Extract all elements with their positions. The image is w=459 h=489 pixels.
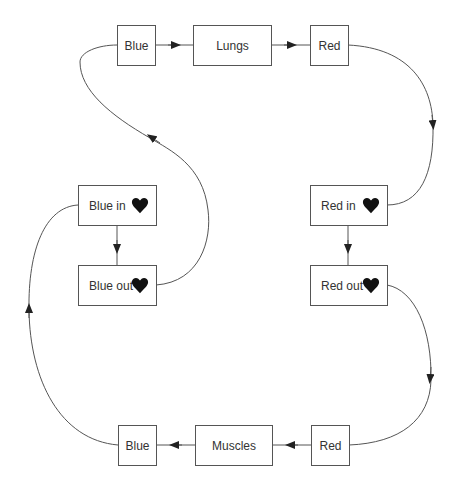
node-label: Red — [318, 39, 340, 53]
connector-layer — [0, 0, 459, 489]
node-label: Red in — [321, 199, 356, 213]
node-red-top: Red — [310, 25, 349, 66]
node-blue-in: Blue in — [78, 185, 157, 226]
node-label: Red — [319, 439, 341, 453]
edge-red-to-red-in — [348, 45, 433, 205]
heart-icon — [131, 197, 149, 215]
node-label: Blue out — [89, 279, 133, 293]
heart-icon — [362, 277, 380, 295]
node-label: Lungs — [216, 39, 249, 53]
node-blue-out: Blue out — [78, 265, 157, 306]
edge-blue-to-blue-in — [29, 205, 118, 445]
arrowhead — [151, 137, 160, 143]
node-lungs: Lungs — [193, 25, 272, 66]
edge-blue-out-to-blue — [80, 45, 209, 285]
heart-icon — [362, 197, 380, 215]
node-red-bottom: Red — [311, 425, 350, 466]
circulation-diagram: Blue Lungs Red Blue in Blue out Red in R… — [0, 0, 459, 489]
edge-red-out-to-red — [349, 285, 431, 445]
node-red-in: Red in — [310, 185, 388, 226]
node-label: Blue — [125, 439, 149, 453]
heart-icon — [131, 277, 149, 295]
node-blue-bottom: Blue — [118, 425, 157, 466]
node-label: Red out — [321, 279, 363, 293]
node-label: Blue — [124, 39, 148, 53]
node-red-out: Red out — [310, 265, 388, 306]
node-label: Blue in — [89, 199, 126, 213]
node-blue-top: Blue — [117, 25, 156, 66]
node-label: Muscles — [212, 439, 256, 453]
node-muscles: Muscles — [195, 425, 273, 466]
